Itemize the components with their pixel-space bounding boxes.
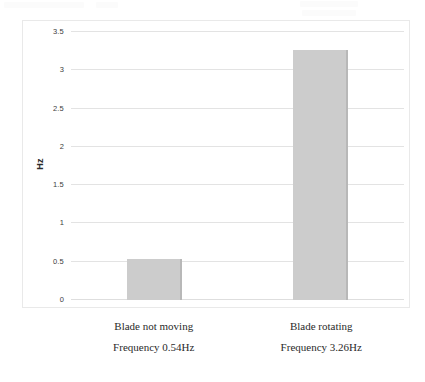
bar-2 (293, 50, 348, 300)
gridline: 0 (71, 299, 404, 300)
chart-frame: Hz 00.511.522.533.5 (22, 20, 410, 308)
y-axis-tick-label: 3 (60, 65, 64, 74)
category-label-2: Blade rotatingFrequency 3.26Hz (231, 316, 411, 358)
y-axis-tick-label: 2 (60, 141, 64, 150)
y-axis-tick-label: 3.5 (53, 27, 64, 36)
category-name: Blade rotating (231, 316, 411, 337)
scan-smudge (302, 10, 356, 16)
y-axis-tick-label: 0 (60, 295, 64, 304)
scan-artifact-band (0, 0, 425, 20)
gridline: 3.5 (71, 31, 404, 32)
category-frequency-value: Frequency 0.54Hz (64, 337, 244, 358)
category-label-1: Blade not movingFrequency 0.54Hz (64, 316, 244, 358)
gridline: 1 (71, 222, 404, 223)
y-axis-tick-label: 1.5 (53, 180, 64, 189)
x-axis-category-labels: Blade not movingFrequency 0.54HzBlade ro… (22, 316, 410, 378)
gridline: 2 (71, 146, 404, 147)
y-axis-tick-label: 0.5 (53, 256, 64, 265)
gridline: 1.5 (71, 184, 404, 185)
category-frequency-value: Frequency 3.26Hz (231, 337, 411, 358)
y-axis-tick-label: 2.5 (53, 103, 64, 112)
y-axis-tick-label: 1 (60, 218, 64, 227)
gridline: 3 (71, 69, 404, 70)
plot-area: 00.511.522.533.5 (71, 32, 404, 300)
scan-smudge (96, 2, 118, 8)
bar-1 (127, 259, 182, 300)
category-name: Blade not moving (64, 316, 244, 337)
y-axis-title: Hz (35, 158, 45, 170)
scan-smudge (4, 2, 84, 8)
gridline: 0.5 (71, 261, 404, 262)
scan-smudge (300, 1, 358, 7)
gridline: 2.5 (71, 108, 404, 109)
